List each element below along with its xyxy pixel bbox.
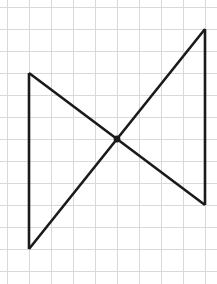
graph-paper-grid [0,0,217,284]
figure-canvas [0,0,217,284]
figure-svg [0,0,217,284]
diagonal-intersection-marker [114,136,121,143]
diagonal-intersection-point [114,136,121,143]
